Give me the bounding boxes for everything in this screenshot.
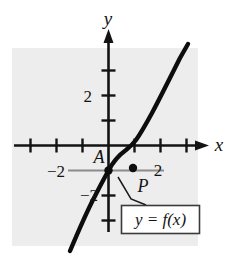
y-tick-label-2: 2 [84, 87, 93, 106]
x-tick-label-2: 2 [154, 161, 163, 180]
x-axis-arrowhead [195, 141, 209, 151]
x-tick-label--2: −2 [47, 162, 65, 181]
point-p-label: P [137, 176, 149, 196]
y-axis-arrowhead [104, 29, 114, 43]
point-a-label: A [93, 147, 106, 167]
x-axis-label: x [214, 134, 224, 155]
y-axis-label: y [102, 8, 113, 29]
curve-label-text: y = f(x) [133, 210, 186, 229]
point-a-marker [104, 166, 112, 174]
function-graph-figure: y = f(x) y x −2 2 2 −2 A P [0, 0, 227, 260]
y-tick-label--2: −2 [80, 186, 98, 205]
point-p-marker [129, 164, 137, 172]
